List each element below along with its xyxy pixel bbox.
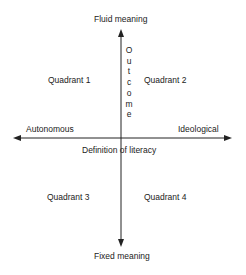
arrow-left-icon <box>13 135 21 141</box>
outcome-letter: t <box>125 66 133 77</box>
outcome-letter: o <box>125 88 133 99</box>
outcome-axis-title: O u t c o m e <box>125 45 133 120</box>
definition-of-literacy-label: Definition of literacy <box>82 146 156 155</box>
outcome-letter: O <box>125 45 133 56</box>
fluid-meaning-label: Fluid meaning <box>94 15 147 24</box>
fixed-meaning-label: Fixed meaning <box>94 252 150 261</box>
arrow-up-icon <box>118 29 124 37</box>
outcome-letter: m <box>125 99 133 110</box>
ideological-label: Ideological <box>178 125 219 134</box>
quadrant-4-label: Quadrant 4 <box>144 193 187 202</box>
arrow-down-icon <box>118 239 124 247</box>
arrow-right-icon <box>224 135 232 141</box>
outcome-letter: e <box>125 109 133 120</box>
autonomous-label: Autonomous <box>26 125 74 134</box>
outcome-letter: c <box>125 77 133 88</box>
outcome-letter: u <box>125 56 133 67</box>
quadrant-3-label: Quadrant 3 <box>47 193 90 202</box>
quadrant-1-label: Quadrant 1 <box>48 76 91 85</box>
quadrant-2-label: Quadrant 2 <box>144 76 187 85</box>
horizontal-axis <box>13 135 232 141</box>
axes <box>0 0 246 275</box>
